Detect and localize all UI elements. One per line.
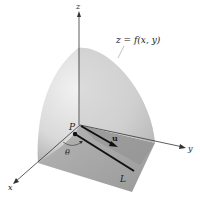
vector-u-label: u — [112, 133, 118, 143]
point-P — [73, 132, 77, 136]
y-axis-arrow-icon — [179, 144, 186, 149]
directional-derivative-diagram: z y x z = f(x, y) u L P θ — [0, 0, 200, 200]
line-L-label: L — [119, 174, 126, 184]
z-axis-label: z — [75, 2, 81, 11]
z-axis-arrow-icon — [77, 11, 81, 17]
x-axis-label: x — [8, 183, 13, 192]
angle-theta-label: θ — [65, 148, 70, 157]
y-axis-label: y — [187, 144, 193, 153]
surface-label: z = f(x, y) — [115, 35, 161, 45]
point-P-label: P — [68, 122, 76, 132]
surface-label-leader — [118, 46, 124, 58]
